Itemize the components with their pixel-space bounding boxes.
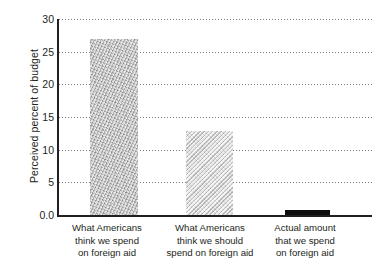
y-tick-label-10: 10 — [42, 144, 54, 156]
x-category-label-3-line-3: on foreign aid — [246, 247, 364, 260]
gridline-0: 0.0 — [59, 215, 372, 216]
x-category-label-3-line-1: Actual amount — [246, 222, 364, 235]
y-tick-label-5: 5 — [48, 176, 54, 188]
gridline-30: 30 — [59, 19, 372, 20]
y-tick-label-25: 25 — [42, 46, 54, 58]
bar-actual-amount-that-we-spend[interactable] — [285, 210, 330, 215]
y-axis-title: Perceived percent of budget — [28, 21, 40, 211]
plot-area: 30 25 20 15 10 5 0.0 — [57, 19, 372, 215]
x-category-label-3-line-2: that we spend — [246, 235, 364, 248]
bar-what-americans-think-we-should-spend[interactable] — [186, 131, 233, 215]
y-tick-label-20: 20 — [42, 78, 54, 90]
bar-what-americans-think-we-spend[interactable] — [90, 39, 138, 215]
x-category-label-3: Actual amount that we spend on foreign a… — [246, 222, 364, 260]
y-tick-label-30: 30 — [42, 13, 54, 25]
y-tick-label-15: 15 — [42, 111, 54, 123]
y-tick-label-0: 0.0 — [39, 209, 54, 221]
chart-figure: Perceived percent of budget 30 25 20 15 … — [0, 0, 391, 280]
